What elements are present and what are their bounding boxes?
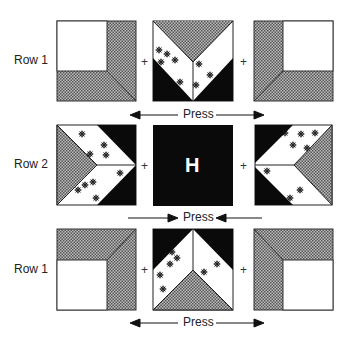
press-label-2: Press (181, 210, 216, 224)
plus-sign: + (141, 55, 148, 69)
plus-sign: + (240, 263, 247, 277)
row-label-2: Row 2 (14, 157, 48, 171)
block-row3-left (57, 229, 136, 310)
block-row1-right (254, 21, 333, 101)
quilt-assembly-diagram (0, 0, 344, 346)
row-label-1: Row 1 (14, 53, 48, 67)
plus-sign: + (240, 55, 247, 69)
block-row2-right (255, 125, 332, 205)
block-row3-center (153, 229, 233, 310)
block-row1-left (57, 21, 136, 101)
block-row1-center (153, 21, 233, 101)
block-row3-right (254, 229, 333, 310)
plus-sign: + (141, 263, 148, 277)
plus-sign: + (240, 159, 247, 173)
press-label-3: Press (181, 315, 216, 329)
press-label-1: Press (181, 107, 216, 121)
plus-sign: + (141, 159, 148, 173)
center-block-label: H (185, 154, 199, 177)
row-label-3: Row 1 (14, 262, 48, 276)
block-row2-left (57, 125, 136, 205)
